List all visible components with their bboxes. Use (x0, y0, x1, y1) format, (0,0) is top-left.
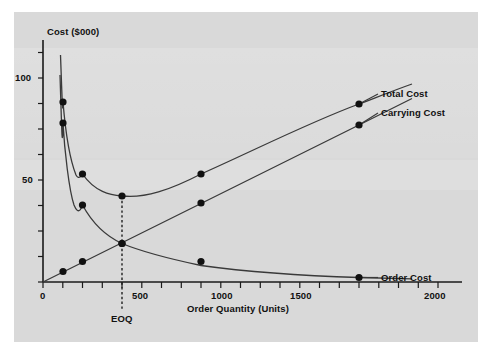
total-cost-markers (59, 98, 362, 199)
y-tick-label-0: 0 (40, 290, 45, 301)
carrying-cost-series-label: Carrying Cost (381, 107, 445, 118)
x-tick-label-2000: 2000 (424, 290, 446, 301)
eoq-cost-chart-figure: Cost ($000) 100 50 0 500 1000 1500 2000 … (0, 0, 491, 352)
x-tick-label-1500: 1500 (290, 290, 312, 301)
x-axis-ticks (43, 282, 438, 288)
x-tick-label-1000: 1000 (211, 290, 233, 301)
eoq-annotation-label: EOQ (111, 313, 132, 324)
x-axis-title: Order Quantity (Units) (187, 303, 289, 314)
x-tick-label-500: 500 (132, 290, 148, 301)
y-tick-label-50: 50 (22, 174, 33, 185)
chart-plot-area (0, 0, 491, 352)
order-cost-markers (59, 119, 362, 281)
total-cost-series-label: Total Cost (381, 88, 428, 99)
y-tick-label-100: 100 (15, 72, 31, 83)
order-cost-series-label: Order Cost (381, 272, 432, 283)
y-axis-title: Cost ($000) (47, 26, 99, 37)
